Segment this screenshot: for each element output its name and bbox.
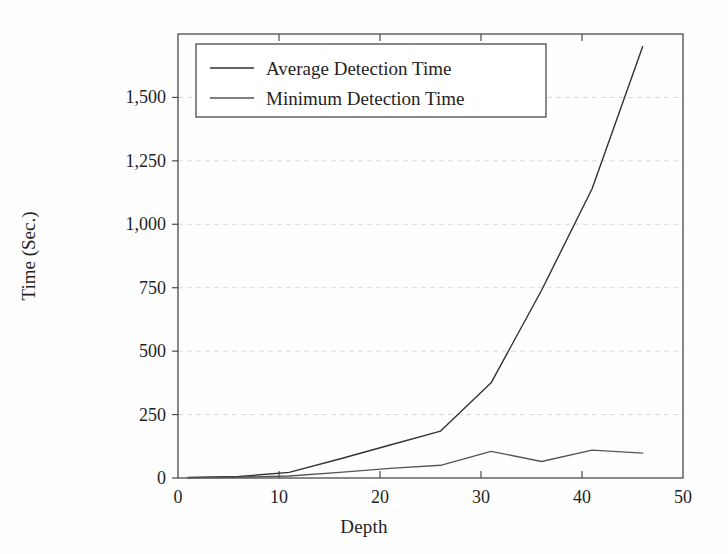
legend-label-minimum: Minimum Detection Time <box>266 88 464 109</box>
y-tick-label: 750 <box>139 278 166 298</box>
chart-figure: 01020304050 02505007501,0001,2501,500 Av… <box>0 0 728 554</box>
line-chart-canvas: 01020304050 02505007501,0001,2501,500 Av… <box>0 0 728 554</box>
chart-legend: Average Detection TimeMinimum Detection … <box>196 44 546 117</box>
x-tick-label: 0 <box>174 487 183 507</box>
y-tick-label: 1,500 <box>126 87 167 107</box>
y-tick-label: 500 <box>139 341 166 361</box>
x-tick-label: 40 <box>573 487 591 507</box>
series-line-minimum <box>188 450 642 478</box>
x-tick-label: 20 <box>371 487 389 507</box>
y-axis-ticks: 02505007501,0001,2501,500 <box>126 87 179 488</box>
legend-label-average: Average Detection Time <box>266 58 451 79</box>
y-tick-label: 250 <box>139 405 166 425</box>
x-tick-label: 30 <box>472 487 490 507</box>
y-tick-label: 0 <box>157 468 166 488</box>
x-axis-title: Depth <box>0 516 728 538</box>
x-tick-label: 50 <box>674 487 692 507</box>
y-tick-label: 1,000 <box>126 214 167 234</box>
x-tick-label: 10 <box>270 487 288 507</box>
y-tick-label: 1,250 <box>126 151 167 171</box>
